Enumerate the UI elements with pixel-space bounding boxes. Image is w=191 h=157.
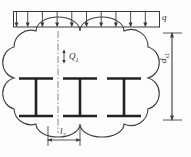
dimension-l2-arrowhead-left [47,138,53,142]
dimension-Q1-label-sub: 1 [76,57,79,63]
load-arrow [85,12,89,28]
steel-i-beams-group [19,79,141,117]
dimension-l2-label-sub: 2 [63,132,66,138]
load-arrow [55,12,59,28]
dimension-ds1-label-main: d [158,59,168,64]
dimension-Q1-group [62,50,65,64]
concrete-outline-group [3,17,160,137]
load-arrow [143,12,147,28]
dimension-ds1-label: ds1 [159,53,170,63]
load-arrow [26,12,30,28]
dimension-ds1-label-sub: s1 [164,53,170,58]
load-arrow [129,12,133,28]
concrete-scalloped-outline [3,17,160,137]
load-symbol-label: q [162,13,167,22]
i-beam-2 [63,79,97,117]
distributed-load-group [13,12,160,28]
dimension-Q1-label: Q1 [69,52,79,63]
i-beam-1 [19,79,53,117]
i-beam-3 [107,79,141,117]
load-arrow [15,12,19,28]
dimension-l2-arrowhead-right [76,138,82,142]
dimension-Q1-arrowhead-top [62,50,65,53]
load-arrow [40,12,44,28]
load-arrow [99,12,103,28]
dimension-Q1-arrowhead-bottom [62,60,65,63]
figure-canvas: q Q1 l2 ds1 [0,0,191,157]
dimension-ds1-group [163,32,182,121]
diagram-svg [0,0,191,157]
dimension-l2-label: l2 [60,127,66,138]
load-arrows [15,12,148,28]
